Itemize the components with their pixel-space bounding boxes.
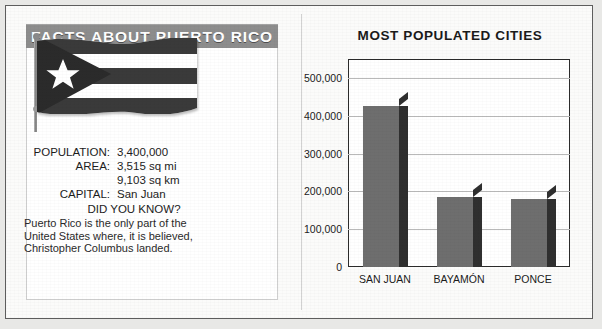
bar-side-face (473, 197, 482, 267)
facts-panel: FACTS ABOUT PUERTO RICO (6, 6, 298, 318)
fact-row: CAPITAL: San Juan (24, 188, 250, 200)
y-axis-tick-label: 100,000 (272, 223, 342, 235)
chart-panel: MOST POPULATED CITIES 500,000400,000300,… (306, 6, 594, 318)
y-axis-tick-label: 200,000 (272, 185, 342, 197)
blurb-line: United States where, it is believed, (24, 230, 250, 243)
bar-front-face (363, 106, 399, 267)
blurb-line: Puerto Rico is the only part of the (24, 217, 250, 230)
fact-label: CAPITAL: (24, 188, 117, 200)
fact-row: AREA: 3,515 sq mi (24, 160, 250, 172)
bar (363, 106, 399, 267)
puerto-rico-flag-icon (37, 38, 197, 114)
bar (437, 197, 473, 267)
fact-row: POPULATION: 3,400,000 (24, 146, 250, 158)
x-axis-tick-label: BAYAMÓN (434, 273, 485, 285)
y-axis-tick-label: 500,000 (272, 72, 342, 84)
bar-chart: 500,000400,000300,000200,000100,0000 SAN… (290, 59, 574, 281)
fact-value: San Juan (117, 188, 166, 200)
fact-label: POPULATION: (24, 146, 117, 158)
blurb-line: Christopher Columbus landed. (24, 242, 250, 255)
chart-title: MOST POPULATED CITIES (306, 28, 594, 43)
x-axis-tick-label: SAN JUAN (359, 273, 411, 285)
bar-side-face (399, 106, 408, 267)
fact-value: 9,103 sq km (117, 174, 180, 186)
infographic-page: FACTS ABOUT PUERTO RICO (5, 5, 593, 319)
did-you-know-heading: DID YOU KNOW? (18, 203, 250, 215)
bar-front-face (511, 199, 547, 267)
y-axis-tick-label: 0 (272, 261, 342, 273)
flag-illustration (34, 36, 214, 132)
bar-front-face (437, 197, 473, 267)
y-axis-tick-label: 400,000 (272, 110, 342, 122)
bar (511, 199, 547, 267)
fact-row: 9,103 sq km (24, 174, 250, 186)
bar-side-face (547, 199, 556, 267)
fact-value: 3,515 sq mi (117, 160, 176, 172)
did-you-know-text: Puerto Rico is the only part of the Unit… (24, 217, 250, 255)
fact-label: AREA: (24, 160, 117, 172)
x-axis-tick-label: PONCE (514, 273, 551, 285)
y-axis-tick-label: 300,000 (272, 148, 342, 160)
fact-value: 3,400,000 (117, 146, 168, 158)
gridline (348, 78, 570, 79)
facts-list: POPULATION: 3,400,000 AREA: 3,515 sq mi … (24, 146, 250, 255)
